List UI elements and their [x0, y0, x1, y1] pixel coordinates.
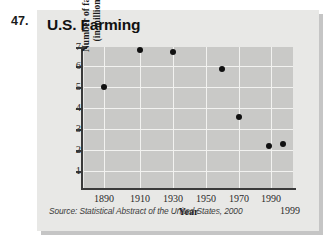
gridline-horizontal [84, 66, 293, 67]
gridline-horizontal [84, 129, 293, 130]
y-tick-label: 3 [76, 122, 81, 135]
chart-plot: 7 6 5 4 3 2 1 1890 1910 1930 1950 19 [84, 47, 293, 188]
gridline-horizontal [84, 171, 293, 172]
x-tick-label: 1890 [94, 193, 114, 204]
x-tick-label: 1910 [130, 193, 150, 204]
gridline-vertical [206, 47, 207, 188]
y-tick-label: 5 [76, 80, 81, 93]
y-axis-title: Number of farms (in millions) [81, 0, 103, 77]
x-tick-label: 1990 [261, 193, 281, 204]
gridline-horizontal [84, 150, 293, 151]
x-axis-line [81, 188, 296, 190]
x-tick-label: 1930 [163, 193, 183, 204]
data-point [170, 49, 176, 55]
data-point [219, 66, 225, 72]
source-note: Source: Statistical Abstract of the Unit… [49, 206, 242, 216]
data-point [266, 143, 272, 149]
plot-area [84, 47, 293, 188]
y-axis-title-line-2: (in millions) [92, 0, 103, 77]
y-tick-label: 1 [76, 164, 81, 177]
exercise-number: 47. [11, 14, 28, 28]
data-point [137, 47, 143, 53]
x-tick-label: 1950 [196, 193, 216, 204]
data-point [101, 84, 107, 90]
gridline-horizontal [84, 87, 293, 88]
gridline-vertical [104, 47, 105, 188]
y-tick-label: 2 [76, 143, 81, 156]
figure-card: U.S. Farming 7 [37, 10, 319, 231]
gridline-horizontal [84, 108, 293, 109]
data-point [280, 141, 286, 147]
y-axis-title-line-1: Number of farms [81, 0, 92, 77]
gridline-vertical [140, 47, 141, 188]
x-tick-label: 1970 [229, 193, 249, 204]
y-tick-label: 4 [76, 101, 81, 114]
data-point [236, 114, 242, 120]
gridline-vertical [271, 47, 272, 188]
gridline-vertical [173, 47, 174, 188]
